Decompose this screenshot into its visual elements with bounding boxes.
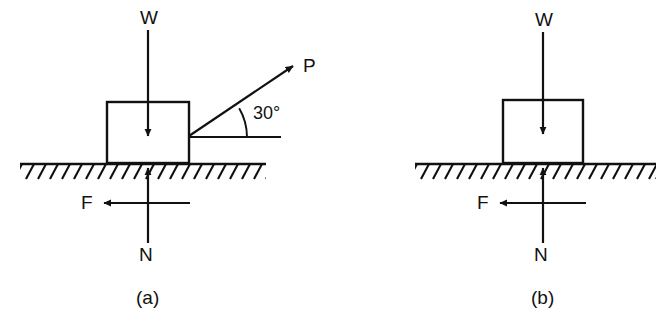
force-label-f-b: F — [477, 193, 489, 212]
panel-caption-b: (b) — [531, 288, 554, 307]
angle-label-a: 30° — [253, 104, 280, 122]
force-label-n-b: N — [534, 245, 548, 264]
diagram-vector-layer — [0, 0, 667, 324]
ground-hatching-a — [14, 164, 274, 179]
force-label-w-a: W — [140, 8, 158, 27]
panel-caption-a: (a) — [136, 288, 159, 307]
force-label-w-b: W — [535, 10, 553, 29]
angle-arc-a — [239, 108, 247, 137]
force-label-f-a: F — [81, 193, 93, 212]
force-label-p-a: P — [303, 56, 316, 75]
free-body-diagram-figure: W P 30° F N (a) W F N (b) — [0, 0, 667, 324]
force-arrow-p-a — [189, 66, 293, 136]
panel-b-graphics — [409, 32, 664, 243]
force-label-n-a: N — [139, 245, 153, 264]
ground-hatching-b — [409, 164, 664, 179]
panel-a-graphics — [14, 30, 293, 243]
